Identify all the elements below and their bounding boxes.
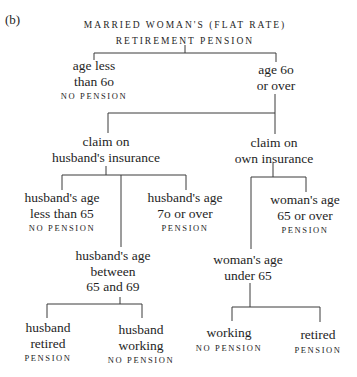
outcome-pension: PENSION [148,222,223,235]
node-husband-age-65-to-69: husband's age between 65 and 69 [76,248,151,295]
node-text: 7o or over [148,206,223,222]
node-woman-age-65-or-over: woman's age 65 or over PENSION [270,192,340,237]
node-text: claim on [235,135,313,151]
outcome-pension: PENSION [24,352,71,365]
node-husband-retired: husband retired PENSION [24,320,71,365]
node-text: 65 and 69 [76,279,151,295]
node-age-less-than-60: age less than 6o NO PENSION [61,58,127,103]
outcome-pension: PENSION [270,224,340,237]
node-text: under 65 [213,268,283,284]
node-text: or over [257,78,296,94]
node-text: husband's age [25,190,100,206]
outcome-no-pension: NO PENSION [25,222,100,235]
node-text: husband's insurance [52,150,160,166]
node-text: working [108,338,174,354]
node-text: age 6o [257,62,296,78]
node-husband-working: husband working NO PENSION [108,322,174,367]
node-husband-age-less-65: husband's age less than 65 NO PENSION [25,190,100,235]
node-age-60-or-over: age 6o or over [257,62,296,93]
node-text: working [196,325,262,341]
node-text: 65 or over [270,208,340,224]
node-text: less than 65 [25,206,100,222]
outcome-no-pension: NO PENSION [108,354,174,367]
node-text: husband [24,320,71,336]
node-text: than 6o [61,74,127,90]
node-claim-own-insurance: claim on own insurance [235,135,313,166]
node-text: between [76,264,151,280]
node-text: husband [108,322,174,338]
node-claim-husband-insurance: claim on husband's insurance [52,134,160,165]
node-text: retired [294,327,341,343]
node-husband-age-70-or-over: husband's age 7o or over PENSION [148,190,223,235]
node-text: woman's age [270,192,340,208]
node-text: woman's age [213,252,283,268]
outcome-pension: PENSION [294,344,341,357]
node-woman-age-under-65: woman's age under 65 [213,252,283,283]
node-woman-retired: retired PENSION [294,327,341,357]
node-text: husband's age [148,190,223,206]
node-woman-working: working NO PENSION [196,325,262,355]
node-text: retired [24,336,71,352]
node-text: claim on [52,134,160,150]
node-text: age less [61,58,127,74]
outcome-no-pension: NO PENSION [196,342,262,355]
node-text: husband's age [76,248,151,264]
outcome-no-pension: NO PENSION [61,90,127,103]
node-text: own insurance [235,151,313,167]
